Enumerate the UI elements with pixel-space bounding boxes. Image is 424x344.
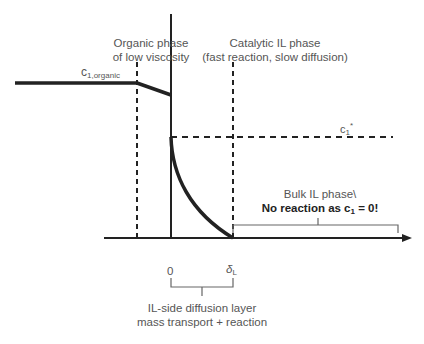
diffusion-layer-label: IL-side diffusion layer mass transport +… — [132, 301, 272, 329]
bulk-bracket — [233, 218, 398, 233]
diffusion-layer-bracket — [171, 278, 233, 296]
catalytic-phase-line2: (fast reaction, slow diffusion) — [190, 50, 360, 64]
il-concentration-curve — [171, 137, 233, 238]
tick-zero-label: 0 — [167, 264, 173, 278]
organic-concentration-profile — [15, 83, 171, 95]
bulk-line2-suffix: = 0! — [355, 202, 378, 214]
diffusion-line1: IL-side diffusion layer — [132, 301, 272, 315]
c-organic-sub: 1,organic — [87, 71, 120, 80]
catalytic-phase-label: Catalytic IL phase (fast reaction, slow … — [190, 36, 360, 64]
tick-delta-sub: L — [232, 268, 236, 277]
axis-arrow-icon — [402, 234, 412, 242]
bulk-il-phase-label: Bulk IL phase\ No reaction as c1 = 0! — [250, 187, 390, 219]
diffusion-line2: mass transport + reaction — [132, 315, 272, 329]
c-organic-label: c1,organic — [81, 65, 120, 83]
bulk-line2-prefix: No reaction as c — [262, 202, 351, 214]
c-star-label: c1* — [340, 119, 353, 140]
c-star-sup: * — [350, 121, 353, 130]
tick-delta-label: δL — [226, 262, 237, 280]
catalytic-phase-line1: Catalytic IL phase — [190, 36, 360, 50]
bulk-line2: No reaction as c1 = 0! — [250, 201, 390, 219]
bulk-line1: Bulk IL phase\ — [250, 187, 390, 201]
